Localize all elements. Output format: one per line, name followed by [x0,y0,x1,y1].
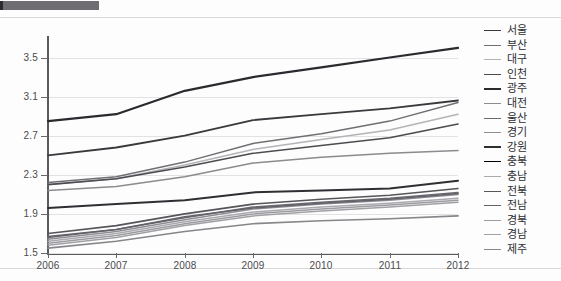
legend-item[interactable]: 인천 [484,67,527,82]
legend-swatch-icon [484,234,501,235]
legend-label: 충남 [507,171,527,182]
legend-item[interactable]: 전북 [484,184,527,199]
legend-label: 강원 [507,142,527,153]
legend-item[interactable]: 경남 [484,227,527,242]
legend-label: 대전 [507,98,527,109]
legend-swatch-icon [484,249,501,250]
series-line [48,114,458,184]
page-rule-top [0,17,561,18]
legend-item[interactable]: 광주 [484,81,527,96]
legend-swatch-icon [484,88,501,90]
legend-label: 경북 [507,215,527,226]
x-tick-label: 2006 [36,260,59,271]
legend-label: 광주 [507,83,527,94]
legend-swatch-icon [484,205,501,206]
legend-swatch-icon [484,176,501,177]
series-line [48,150,458,190]
legend-label: 인천 [507,69,527,80]
scanned-page: 3.53.12.72.31.91.5 200620072008200920102… [0,0,561,281]
legend-item[interactable]: 부산 [484,38,527,53]
legend-item[interactable]: 전남 [484,198,527,213]
legend-swatch-icon [484,161,501,162]
legend-swatch-icon [484,132,501,133]
x-tick-label: 2011 [379,260,401,271]
x-tick-label: 2008 [173,260,196,271]
legend-label: 전북 [507,186,527,197]
legend-item[interactable]: 서울 [484,23,527,38]
x-tick-label: 2012 [446,260,469,271]
legend-swatch-icon [484,30,501,31]
chart-legend: 서울부산대구인천광주대전울산경기강원충북충남전북전남경북경남제주 [484,20,558,260]
legend-item[interactable]: 제주 [484,242,527,257]
series-line [48,124,458,185]
legend-item[interactable]: 대전 [484,96,527,111]
series-line [48,189,458,234]
legend-swatch-icon [484,45,501,46]
series-line [48,48,458,121]
legend-label: 부산 [507,40,527,51]
legend-label: 서울 [507,25,527,36]
legend-label: 제주 [507,244,527,255]
legend-swatch-icon [484,118,501,119]
series-lines [0,20,480,260]
legend-item[interactable]: 경기 [484,125,527,140]
legend-label: 울산 [507,113,527,124]
legend-swatch-icon [484,220,501,221]
legend-label: 대구 [507,54,527,65]
legend-item[interactable]: 대구 [484,52,527,67]
legend-swatch-icon [484,146,501,148]
legend-label: 경기 [507,127,527,138]
legend-item[interactable]: 울산 [484,111,527,126]
legend-swatch-icon [484,103,501,104]
legend-label: 전남 [507,200,527,211]
legend-swatch-icon [484,74,501,75]
legend-swatch-icon [484,191,501,192]
x-tick-label: 2010 [309,260,332,271]
x-tick-label: 2009 [241,260,264,271]
line-chart: 3.53.12.72.31.91.5 200620072008200920102… [0,20,480,260]
legend-item[interactable]: 경북 [484,213,527,228]
legend-item[interactable]: 강원 [484,140,527,155]
x-tick-label: 2007 [104,260,127,271]
page-rule-bottom [0,268,561,269]
header-bar [0,1,99,10]
legend-swatch-icon [484,59,501,60]
legend-label: 경남 [507,229,527,240]
legend-label: 충북 [507,156,527,167]
series-line [48,194,458,239]
legend-item[interactable]: 충북 [484,154,527,169]
legend-item[interactable]: 충남 [484,169,527,184]
